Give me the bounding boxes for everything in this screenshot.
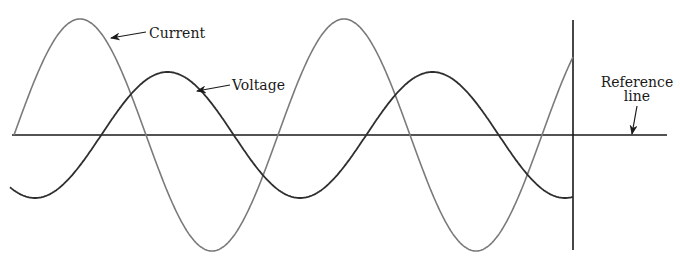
current-label: Current bbox=[149, 25, 205, 41]
reference-line-label-line2: line bbox=[624, 88, 650, 104]
voltage-label: Voltage bbox=[231, 77, 285, 93]
reference-label-arrow bbox=[632, 106, 637, 134]
ac-phase-diagram: Current Voltage Reference line bbox=[0, 0, 680, 259]
current-label-arrow bbox=[111, 32, 146, 38]
voltage-label-arrow bbox=[197, 85, 230, 91]
